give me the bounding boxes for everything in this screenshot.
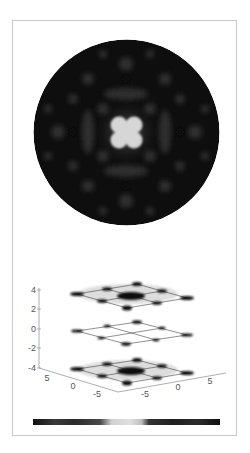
slice-plot-3d: 4 2 0 -2 -4 5 0 -5 -5 0 5 [0, 0, 250, 453]
x-tick-label: 0 [70, 381, 75, 391]
colorbar [33, 419, 220, 425]
y-tick-label: 0 [175, 382, 180, 392]
z-tick-label: 2 [31, 304, 36, 314]
y-tick-label: 5 [207, 376, 212, 386]
y-tick-label: -5 [141, 389, 149, 399]
x-tick-label: -5 [93, 389, 101, 399]
z-tick-label: -4 [28, 363, 36, 373]
z-tick-label: 0 [31, 324, 36, 334]
x-tick-label: 5 [44, 373, 49, 383]
z-tick-label: 4 [31, 285, 36, 295]
top-slice [70, 282, 194, 311]
middle-slice [71, 320, 193, 346]
z-tick-label: -2 [28, 343, 36, 353]
